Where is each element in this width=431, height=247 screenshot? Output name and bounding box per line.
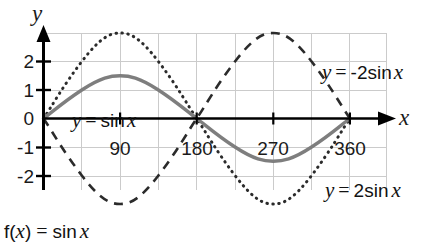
y-tick-label-2: 2 — [12, 52, 34, 71]
curve-label-sinx: y=sinx — [72, 110, 136, 131]
curve-label-2sinx-expr: 2sin — [354, 180, 389, 201]
y-tick-label-1: 1 — [12, 81, 34, 100]
curve-label-neg2sinx: y=-2sinx — [322, 62, 403, 83]
curve-label-2sinx: y=2sinx — [325, 180, 401, 201]
curve-label-sinx-equals: = — [81, 109, 100, 131]
curve-label-sinx-variable: y — [72, 108, 81, 132]
figure-caption: f(x) = sinx — [4, 221, 89, 242]
curve-label-neg2sinx-variable: y — [322, 60, 331, 84]
curve-label-neg2sinx-equals: = — [331, 61, 350, 83]
curve-label-neg2sinx-arg: x — [392, 60, 403, 84]
curve-label-2sinx-arg: x — [388, 178, 400, 202]
y-tick-label-neg1: -1 — [8, 138, 34, 157]
y-axis-label: y — [32, 2, 42, 25]
caption-function-name: f( — [4, 221, 16, 242]
caption-expr: sin — [53, 221, 77, 242]
x-axis-label: x — [399, 106, 409, 129]
sine-graph-figure: y x 2 1 0 -1 -2 90 180 270 360 y=sinx y=… — [0, 0, 431, 247]
curve-label-neg2sinx-expr: -2sin — [351, 62, 392, 83]
curve-label-sinx-expr: sin — [101, 110, 125, 131]
curve-label-2sinx-variable: y — [325, 178, 334, 202]
curve-label-sinx-arg: x — [125, 108, 136, 132]
plot-canvas — [0, 0, 431, 247]
caption-equals: = — [31, 220, 52, 242]
y-tick-label-neg2: -2 — [8, 167, 34, 186]
y-tick-label-0: 0 — [12, 109, 34, 128]
x-tick-label-90: 90 — [93, 139, 147, 158]
x-tick-label-360: 360 — [323, 139, 377, 158]
curve-label-2sinx-equals: = — [334, 179, 353, 201]
caption-variable: x — [16, 219, 25, 243]
x-tick-label-180: 180 — [170, 139, 224, 158]
x-tick-label-270: 270 — [246, 139, 300, 158]
caption-arg: x — [77, 219, 89, 243]
